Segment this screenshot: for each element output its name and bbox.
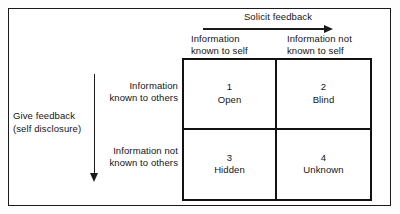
quadrant-open: 1 Open: [184, 60, 277, 130]
solicit-feedback-label: Solicit feedback: [183, 11, 373, 22]
arrow-right-shaft: [203, 28, 325, 30]
row-header-line1: Information: [78, 80, 178, 92]
row-header-line1: Information not: [78, 145, 178, 157]
column-header-line2: known to self: [287, 45, 352, 57]
give-feedback-line1: Give feedback: [13, 110, 93, 123]
row-header-line2: known to others: [78, 92, 178, 104]
arrow-right-head: [324, 25, 333, 33]
quadrant-hidden: 3 Hidden: [184, 130, 277, 200]
quadrant-blind: 2 Blind: [277, 60, 370, 130]
johari-window-diagram: Solicit feedback Information known to se…: [0, 0, 400, 214]
quadrant-name: Hidden: [214, 164, 245, 177]
quadrant-number: 3: [227, 152, 232, 165]
quadrant-number: 4: [321, 152, 326, 165]
arrow-down-head: [90, 173, 98, 182]
johari-grid: 1 Open 2 Blind 3 Hidden 4 Unknown: [182, 58, 372, 201]
quadrant-name: Open: [218, 94, 242, 107]
column-header-line2: known to self: [191, 45, 248, 57]
column-header-line1: Information not: [287, 33, 352, 45]
quadrant-unknown: 4 Unknown: [277, 130, 370, 200]
quadrant-number: 2: [321, 81, 326, 94]
row-header-not-known-to-others: Information not known to others: [78, 145, 178, 168]
give-feedback-label: Give feedback (self disclosure): [13, 110, 93, 135]
row-header-line2: known to others: [78, 157, 178, 169]
quadrant-name: Unknown: [303, 164, 343, 177]
quadrant-name: Blind: [313, 94, 335, 107]
column-header-known-to-self: Information known to self: [191, 33, 248, 56]
give-feedback-line2: (self disclosure): [13, 123, 93, 136]
quadrant-number: 1: [227, 81, 232, 94]
row-header-known-to-others: Information known to others: [78, 80, 178, 103]
column-header-not-known-to-self: Information not known to self: [287, 33, 352, 56]
column-header-line1: Information: [191, 33, 248, 45]
